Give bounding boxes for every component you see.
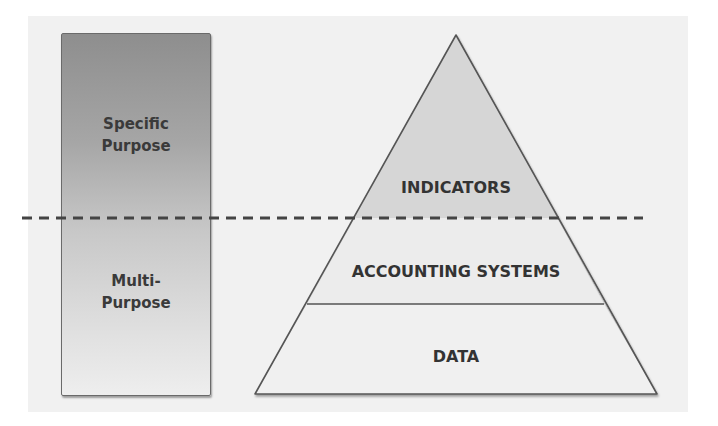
pyramid-tier-accounting-systems [307,218,604,304]
accounting-systems-label: ACCOUNTING SYSTEMS [352,262,561,281]
data-label: DATA [433,347,479,366]
pyramid-diagram [0,0,718,426]
indicators-label: INDICATORS [401,178,511,197]
